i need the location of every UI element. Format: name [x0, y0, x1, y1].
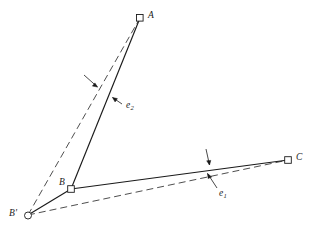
marker-point-b-prime	[25, 212, 32, 219]
edge-label-e1: e1	[219, 189, 227, 199]
point-label-a: A	[148, 11, 154, 21]
leader-arrow-e2-to-solid	[113, 98, 123, 105]
edge-bprime-a-dashed	[28, 18, 140, 215]
marker-point-b	[68, 186, 75, 193]
edge-label-e2: e2	[126, 101, 134, 111]
edge-bprime-b-solid	[28, 189, 71, 215]
edge-label-e2-subscript: 2	[131, 104, 134, 111]
edge-label-e1-subscript: 1	[224, 192, 227, 199]
geometry-diagram: A C B B' e2 e1	[0, 0, 315, 231]
point-label-b: B	[59, 178, 65, 188]
point-label-c: C	[296, 153, 303, 163]
point-label-b-prime: B'	[9, 209, 17, 219]
edge-b-c-solid	[71, 160, 288, 189]
edge-bprime-c-dashed	[28, 160, 288, 215]
edge-label-e2-base: e	[126, 100, 130, 110]
leader-arrow-e2-to-dashed	[84, 75, 98, 87]
marker-point-c	[285, 157, 292, 164]
diagram-canvas	[0, 0, 315, 231]
marker-point-a	[137, 15, 144, 22]
edge-label-e1-base: e	[219, 188, 223, 198]
leader-arrow-e1-to-solid	[206, 149, 211, 165]
